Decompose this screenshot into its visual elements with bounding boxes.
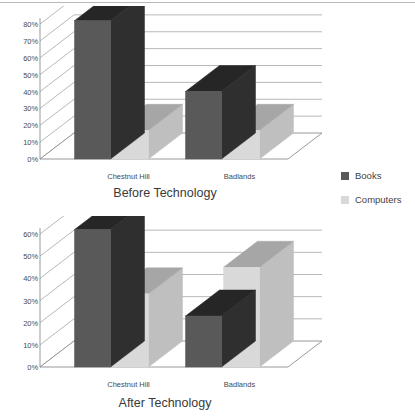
legend-label-books: Books: [355, 170, 381, 181]
category-label: Badlands: [224, 172, 255, 181]
y-tick-label: 60%: [23, 53, 38, 62]
chart-before-y-axis-labels: 0%10%20%30%40%50%60%70%80%: [0, 6, 40, 201]
chart-after-title: After Technology: [0, 396, 330, 410]
category-label: Chestnut Hill: [107, 172, 150, 181]
chart-legend: Books Computers: [341, 170, 415, 218]
y-tick-label: 70%: [23, 36, 38, 45]
y-tick-label: 80%: [23, 20, 38, 29]
legend-label-computers: Computers: [355, 194, 401, 205]
y-tick-label: 10%: [23, 138, 38, 147]
y-tick-label: 10%: [23, 340, 38, 349]
legend-item-computers[interactable]: Computers: [341, 194, 415, 205]
y-tick-label: 40%: [23, 87, 38, 96]
legend-swatch-computers-icon: [341, 196, 349, 204]
y-tick-label: 30%: [23, 104, 38, 113]
chart-after-technology: 0%10%20%30%40%50%60% Chestnut HillBadlan…: [0, 216, 330, 416]
chart-after-svg: [0, 216, 330, 379]
y-tick-label: 0%: [27, 363, 38, 372]
page-top-divider: [0, 2, 415, 3]
category-label: Badlands: [224, 380, 255, 389]
y-tick-label: 60%: [23, 230, 38, 239]
y-tick-label: 50%: [23, 70, 38, 79]
chart-before-technology: 0%10%20%30%40%50%60%70%80% Chestnut Hill…: [0, 6, 330, 201]
y-tick-label: 0%: [27, 155, 38, 164]
legend-swatch-books-icon: [341, 172, 349, 180]
chart-after-plot-area: [0, 216, 330, 383]
chart-before-plot-area: [0, 6, 330, 175]
y-tick-label: 50%: [23, 252, 38, 261]
chart-before-svg: [0, 6, 330, 171]
chart-page: 0%10%20%30%40%50%60%70%80% Chestnut Hill…: [0, 0, 415, 418]
chart-after-y-axis-labels: 0%10%20%30%40%50%60%: [0, 216, 40, 416]
y-tick-label: 20%: [23, 121, 38, 130]
legend-item-books[interactable]: Books: [341, 170, 415, 181]
y-tick-label: 20%: [23, 318, 38, 327]
category-label: Chestnut Hill: [107, 380, 150, 389]
y-tick-label: 40%: [23, 274, 38, 283]
y-tick-label: 30%: [23, 296, 38, 305]
chart-before-title: Before Technology: [0, 186, 330, 200]
